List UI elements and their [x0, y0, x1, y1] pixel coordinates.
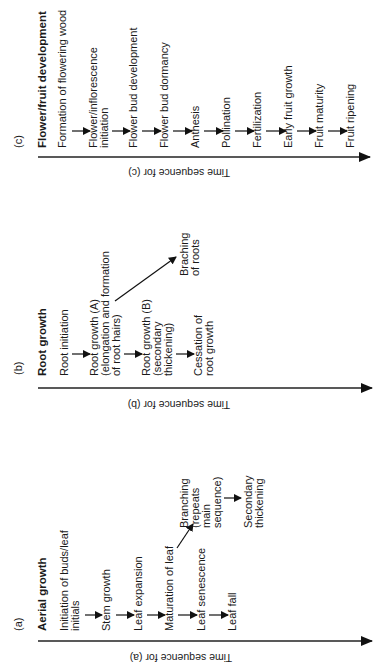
panel-c-axis-label: Time sequence for (c) [128, 167, 230, 179]
panel-a-axis-label: Time sequence for (a) [130, 652, 232, 664]
panel-b-label: (b) [12, 362, 24, 375]
panel-a-secondary-thickening-line2: thickening [253, 478, 265, 528]
panel-c-title: Flower/fruit development [36, 11, 48, 148]
panel-a-step-5: Leaf senescence [195, 548, 207, 631]
panel-c-step-3: Flower bud development [127, 28, 139, 148]
panel-c-step-1: Formation of flowering wood [56, 10, 68, 148]
panel-c-step-9: Fruit maturity [313, 83, 325, 148]
panel-c-step-5: Anthesis [189, 105, 201, 148]
panel-a-step-2: Stem growth [100, 569, 112, 631]
panel-c-flower-fruit-development: (c) Flower/fruit development Formation o… [12, 10, 370, 179]
panel-c-step-6: Pollination [220, 97, 232, 148]
branch-arrow-icon [115, 257, 176, 301]
panel-c-step-2-line2: initiation [98, 108, 110, 148]
diagram-canvas: (c) Flower/fruit development Formation o… [0, 0, 389, 666]
panel-a-branch-line4: sequence) [211, 477, 223, 528]
panel-a-step-1-line2: initials [69, 600, 81, 631]
panel-a-title: Aerial growth [36, 558, 48, 631]
panel-b-axis-label: Time sequence for (b) [128, 399, 230, 411]
panel-c-label: (c) [12, 135, 24, 148]
panel-b-step-3-line3: thickening) [162, 323, 174, 376]
panel-b-title: Root growth [36, 308, 48, 376]
panel-c-step-4: Flower bud dormancy [158, 42, 170, 148]
panel-b-root-growth: (b) Root growth Root initiation Root gro… [12, 233, 372, 411]
panel-a-label: (a) [12, 618, 24, 631]
panel-b-step-2-line3: of root hairs) [110, 314, 122, 376]
panel-b-branch-line2: of roots [189, 239, 201, 276]
panel-a-step-4: Maturation of leaf [163, 545, 175, 631]
panel-c-step-7: Fertilization [251, 92, 263, 148]
panel-a-step-3: Leaf expansion [132, 556, 144, 631]
panel-b-step-1: Root initiation [58, 309, 70, 376]
panel-a-step-6: Leaf fall [226, 592, 238, 631]
panel-c-step-10: Fruit ripening [344, 84, 356, 148]
panel-a-aerial-growth: (a) Aerial growth Initiation of buds/lea… [12, 475, 372, 664]
growth-sequence-diagram: (c) Flower/fruit development Formation o… [0, 0, 389, 666]
panel-b-step-4-line2: root growth [203, 321, 215, 376]
panel-c-step-8: Early fruit growth [282, 65, 294, 148]
